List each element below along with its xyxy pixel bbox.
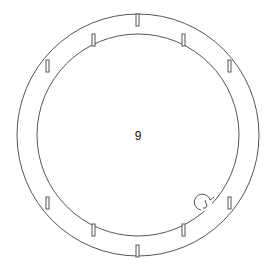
notch-upper-right xyxy=(228,60,231,72)
inner-notch-top-right xyxy=(182,34,185,46)
inner-notch-bottom-left xyxy=(92,224,95,236)
inner-notch-top-left xyxy=(92,34,95,46)
notch-lower-left xyxy=(46,197,49,209)
notch-top xyxy=(136,14,139,26)
notch-bottom xyxy=(136,245,139,257)
notch-upper-left xyxy=(46,60,49,72)
hook-feature xyxy=(194,193,214,211)
notch-lower-right xyxy=(228,197,231,209)
part-drawing: 9 xyxy=(0,0,275,271)
part-label: 9 xyxy=(135,129,142,143)
inner-notch-bottom-right xyxy=(182,224,185,236)
